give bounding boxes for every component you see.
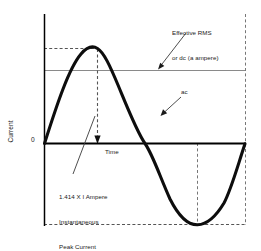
annotation-effective-rms: Effective RMS or dc (a ampere) bbox=[172, 13, 219, 79]
annotation-peak-current-line3: Peak Current bbox=[59, 243, 108, 251]
rms-leader-arrowhead-icon bbox=[158, 63, 164, 70]
y-axis-label: Current bbox=[7, 109, 14, 155]
origin-label: 0 bbox=[31, 136, 35, 144]
annotation-peak-current-line2: Instantaneous bbox=[59, 218, 108, 226]
annotation-ac: ac bbox=[181, 88, 188, 96]
x-axis-label: Time bbox=[105, 148, 119, 156]
peak-leader-line bbox=[73, 116, 95, 174]
sine-wave-diagram: Effective RMS or dc (a ampere) ac Time 0… bbox=[0, 0, 261, 251]
annotation-effective-rms-line1: Effective RMS bbox=[172, 29, 219, 37]
ac-leader-line bbox=[164, 97, 182, 113]
annotation-peak-current-line1: 1.414 X I Ampere bbox=[59, 193, 108, 201]
annotation-effective-rms-line2: or dc (a ampere) bbox=[172, 54, 219, 62]
plot-canvas bbox=[0, 0, 261, 251]
annotation-peak-current: 1.414 X I Ampere Instantaneous Peak Curr… bbox=[59, 177, 108, 251]
